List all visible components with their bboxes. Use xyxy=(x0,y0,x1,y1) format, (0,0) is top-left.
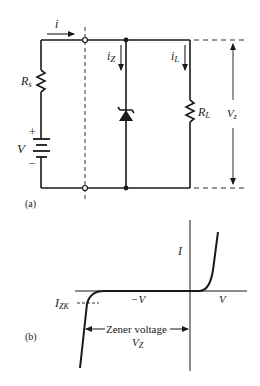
battery-symbol xyxy=(33,139,50,157)
load-resistor-symbol xyxy=(186,100,194,122)
label-minus: − xyxy=(29,156,36,170)
label-neg-voltage: −V xyxy=(131,293,146,305)
panel-label-a: (a) xyxy=(25,198,36,210)
label-load-resistor: RL xyxy=(197,105,210,120)
panel-label-b: (b) xyxy=(25,331,37,343)
source-resistor-symbol xyxy=(37,70,45,92)
label-axis-current: I xyxy=(177,244,183,258)
label-current-il: iL xyxy=(171,49,179,64)
terminal-top xyxy=(83,38,88,43)
label-plus: + xyxy=(29,125,36,139)
circuit-a xyxy=(33,27,247,200)
node-top xyxy=(124,38,129,43)
label-output-voltage: Vz xyxy=(227,107,238,121)
label-current-iz: iZ xyxy=(107,49,116,64)
label-zener-voltage-symbol: VZ xyxy=(132,336,144,350)
node-bottom xyxy=(124,186,129,191)
label-knee-current: IZK xyxy=(54,296,69,311)
zener-diagram: i iZ iL Rs RL + V − Vz (a) I V −V IZK Ze… xyxy=(0,0,260,386)
label-source-resistor: Rs xyxy=(20,74,32,89)
terminal-bottom xyxy=(83,186,88,191)
label-current-i: i xyxy=(55,17,58,31)
label-pos-voltage: V xyxy=(219,293,227,305)
iv-curve xyxy=(80,232,218,368)
label-source-voltage: V xyxy=(17,141,27,156)
label-zener-voltage: Zener voltage xyxy=(106,323,167,335)
